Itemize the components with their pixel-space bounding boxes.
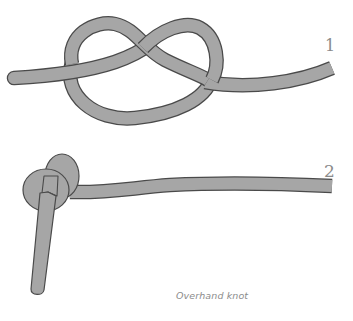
rope-step-1 <box>14 23 332 118</box>
overhand-knot-figure: .rope-out { fill: none; stroke: #4a4a4a;… <box>0 0 353 321</box>
knot-illustration: .rope-out { fill: none; stroke: #4a4a4a;… <box>0 0 353 321</box>
rope-step-2 <box>23 154 332 294</box>
step-number-2: 2 <box>324 163 335 180</box>
step-number-1: 1 <box>325 38 335 54</box>
figure-caption: Overhand knot <box>176 290 248 301</box>
